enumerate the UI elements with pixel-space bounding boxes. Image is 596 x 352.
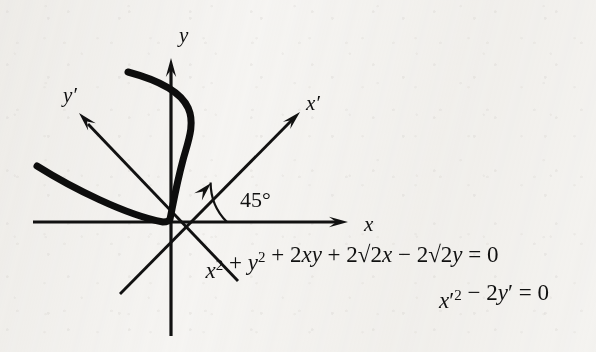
axis-x: x [33, 212, 374, 236]
angle-label: 45° [240, 187, 271, 212]
angle-marker-45: 45° [194, 182, 271, 222]
equation-rotated: x′2 − 2y′ = 0 [438, 280, 549, 313]
axis-x-prime-label: x′ [305, 91, 320, 115]
axis-y-prime-label: y′ [61, 83, 77, 107]
axis-x-label: x [363, 212, 374, 236]
parabola-curve [37, 72, 191, 222]
math-figure: x y x′ y′ 45° x2 + y2 + 2xy + 2√2x − 2 [0, 0, 596, 352]
axis-y-label: y [177, 23, 189, 47]
angle-arc-arrowhead [194, 183, 211, 200]
equation-original: x2 + y2 + 2xy + 2√2x − 2√2y = 0 [205, 242, 499, 283]
equation-list: x2 + y2 + 2xy + 2√2x − 2√2y = 0 x′2 − 2y… [205, 242, 549, 313]
figure-canvas: x y x′ y′ 45° x2 + y2 + 2xy + 2√2x − 2 [0, 0, 596, 352]
axis-y-prime: y′ [61, 83, 238, 281]
